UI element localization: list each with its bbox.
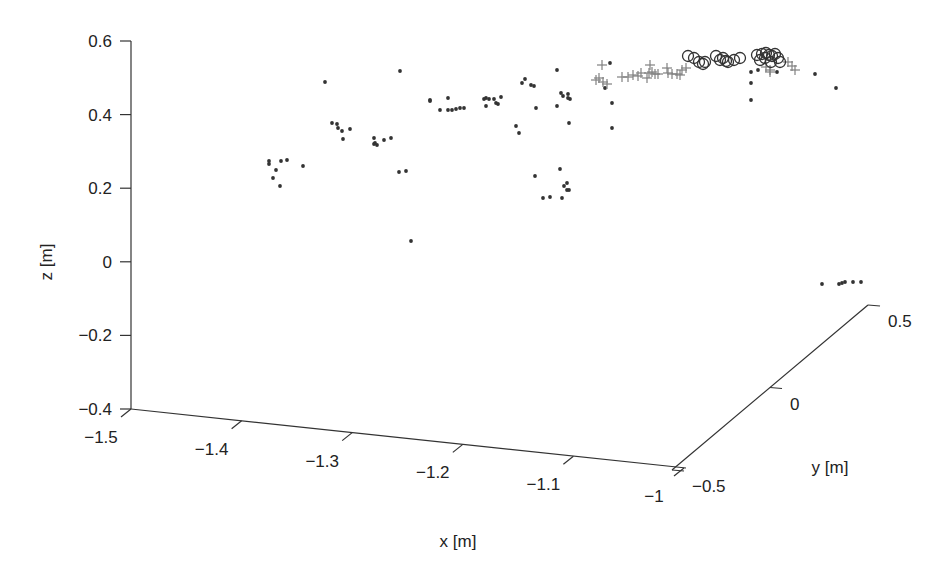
- data-point-dot: [523, 77, 527, 81]
- data-point-dot: [438, 108, 442, 112]
- z-tick-label: −0.2: [78, 326, 112, 345]
- data-point-dot: [813, 72, 817, 76]
- data-point-dot: [496, 102, 500, 106]
- data-point-dot: [454, 107, 458, 111]
- data-point-dot: [749, 70, 753, 74]
- x-axis-line: [131, 409, 686, 468]
- z-tick-label: 0.6: [88, 32, 112, 51]
- data-point-dot: [749, 81, 753, 85]
- data-point-dot: [336, 126, 340, 130]
- data-point-dot: [610, 126, 614, 130]
- data-point-dot: [532, 84, 536, 88]
- data-point-dot: [450, 108, 454, 112]
- scatter-3d-chart: 0.60.40.20−0.2−0.4 z [m] −1.5−1.4−1.3−1.…: [0, 0, 949, 587]
- data-point-dot: [548, 195, 552, 199]
- data-point-dot: [555, 68, 559, 72]
- data-point-dot: [404, 169, 408, 173]
- data-point-dot: [514, 124, 518, 128]
- data-point-dot: [566, 96, 570, 100]
- data-point-dot: [749, 98, 753, 102]
- y-tick-label: −0.5: [692, 477, 726, 496]
- data-point-plus: [662, 63, 672, 73]
- data-point-dot: [330, 121, 334, 125]
- z-tick-label: 0.4: [88, 106, 112, 125]
- y-tick-label: 0: [790, 395, 799, 414]
- data-point-dot: [348, 127, 352, 131]
- data-point-plus: [628, 70, 638, 80]
- data-point-dot: [843, 280, 847, 284]
- data-point-dot: [446, 96, 450, 100]
- data-point-dot: [398, 69, 402, 73]
- data-point-dot: [499, 95, 503, 99]
- data-point-dot: [561, 94, 565, 98]
- x-axis-label: x [m]: [440, 532, 477, 551]
- x-tick-label: −1.2: [416, 463, 450, 482]
- data-point-dot: [487, 97, 491, 101]
- z-tick-label: −0.4: [78, 400, 112, 419]
- data-point-dot: [603, 86, 607, 90]
- data-point-dot: [517, 131, 521, 135]
- data-point-dot: [566, 92, 570, 96]
- data-point-dot: [271, 176, 275, 180]
- data-point-dot: [382, 138, 386, 142]
- x-tick-label: −1.3: [305, 452, 339, 471]
- data-point-dot: [555, 104, 559, 108]
- data-point-dot: [428, 99, 432, 103]
- data-point-dot: [534, 106, 538, 110]
- data-point-dot: [533, 174, 537, 178]
- x-tick-mark: [342, 433, 352, 441]
- data-point-dot: [397, 170, 401, 174]
- data-point-dot: [372, 136, 376, 140]
- data-point-dot: [278, 184, 282, 188]
- y-axis-label: y [m]: [812, 458, 849, 477]
- x-tick-label: −1.4: [195, 440, 229, 459]
- x-tick-label: −1.1: [527, 475, 561, 494]
- data-point-dot: [301, 164, 305, 168]
- x-tick-mark: [453, 444, 463, 452]
- data-point-dot: [567, 121, 571, 125]
- series-dots: [267, 61, 863, 286]
- z-tick-label: 0: [103, 253, 112, 272]
- data-point-dot: [610, 101, 614, 105]
- data-point-dot: [372, 142, 376, 146]
- z-axis: 0.60.40.20−0.2−0.4 z [m]: [37, 32, 131, 419]
- data-point-dot: [335, 122, 339, 126]
- y-tick-mark: [770, 388, 782, 389]
- y-tick-mark: [868, 305, 880, 306]
- data-point-dot: [285, 158, 289, 162]
- data-point-plus: [597, 60, 607, 70]
- x-tick-label: −1: [644, 487, 663, 506]
- x-tick-mark: [563, 456, 573, 464]
- data-point-dot: [446, 108, 450, 112]
- y-axis: −0.500.5 y [m]: [672, 305, 912, 496]
- x-tick-label: −1.5: [84, 428, 118, 447]
- data-point-dot: [565, 181, 569, 185]
- data-point-dot: [560, 196, 564, 200]
- data-point-dot: [484, 104, 488, 108]
- data-point-dot: [608, 61, 612, 65]
- data-point-dot: [462, 106, 466, 110]
- data-point-dot: [567, 188, 571, 192]
- data-point-dot: [340, 129, 344, 133]
- z-axis-label: z [m]: [37, 244, 56, 281]
- data-point-dot: [756, 68, 760, 72]
- data-point-dot: [520, 81, 524, 85]
- data-point-dot: [492, 97, 496, 101]
- x-tick-mark: [674, 468, 684, 476]
- x-tick-mark: [232, 421, 242, 429]
- data-point-dot: [541, 196, 545, 200]
- data-point-dot: [323, 80, 327, 84]
- data-point-dot: [851, 280, 855, 284]
- data-point-circle: [683, 51, 694, 62]
- data-point-dot: [274, 168, 278, 172]
- data-point-dot: [775, 70, 779, 74]
- data-point-plus: [623, 72, 633, 82]
- data-point-dot: [279, 159, 283, 163]
- data-point-plus: [645, 60, 655, 70]
- data-point-dot: [820, 282, 824, 286]
- data-point-dot: [558, 167, 562, 171]
- z-tick-label: 0.2: [88, 179, 112, 198]
- y-tick-label: 0.5: [888, 312, 912, 331]
- x-tick-mark: [121, 409, 131, 417]
- data-point-dot: [267, 162, 271, 166]
